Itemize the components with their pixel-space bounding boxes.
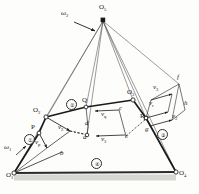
velocity-polygon-center <box>70 107 146 136</box>
label-v3-lower: v3 <box>101 136 106 145</box>
apex-joint-marker <box>101 18 106 23</box>
kinematic-diagram: O5 O1 O2 O3 O4 P Q R a b c d e f g h ω1 … <box>0 0 199 194</box>
label-Q: Q <box>82 97 87 104</box>
label-O3: O3 <box>127 89 134 98</box>
label-f: f <box>177 74 179 81</box>
link-number-3: ③ <box>157 129 168 140</box>
label-vp: vp <box>35 139 40 148</box>
label-a: a <box>83 134 87 141</box>
link-number-1: ① <box>24 134 35 145</box>
apex-rays <box>14 21 179 173</box>
label-c: c <box>119 105 122 112</box>
ground-base <box>14 172 176 181</box>
label-O2: O2 <box>33 107 40 116</box>
label-R: R <box>140 113 145 120</box>
label-O1: O1 <box>6 172 13 181</box>
label-vq: vq <box>101 111 106 120</box>
label-omega1: ω1 <box>4 144 11 153</box>
label-v2-right: v2 <box>172 113 177 122</box>
label-h: h <box>184 100 188 107</box>
label-omega2: ω2 <box>61 10 68 19</box>
label-O4: O4 <box>179 170 186 179</box>
label-e: e <box>125 133 128 140</box>
label-O5: O5 <box>99 4 106 13</box>
velocity-polygon-left <box>14 117 85 173</box>
label-b: b <box>60 150 64 157</box>
label-vr: vr <box>149 100 154 109</box>
label-v3-upper: v3 <box>153 84 158 93</box>
link-number-2: ② <box>66 99 77 110</box>
label-v2: v2 <box>58 124 63 133</box>
label-d: d <box>85 120 89 127</box>
label-P: P <box>31 124 35 131</box>
label-g: g <box>145 126 149 133</box>
link-number-4: ④ <box>91 158 102 169</box>
